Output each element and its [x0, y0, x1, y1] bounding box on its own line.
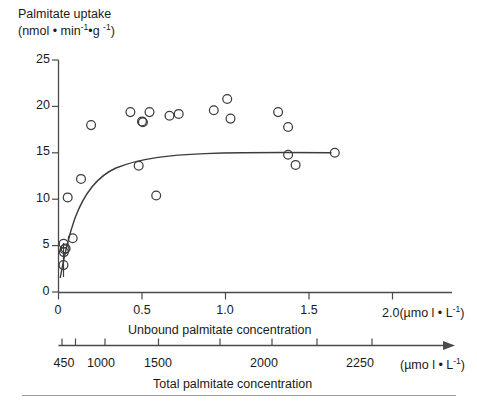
sup-minus-one-b: -1 [103, 22, 111, 32]
data-point [209, 106, 218, 115]
data-point [126, 108, 135, 117]
data-point [134, 161, 143, 170]
scatter-plot [0, 0, 477, 407]
x-tick-label: 1.5 [300, 303, 317, 317]
data-point [284, 150, 293, 159]
data-point [87, 121, 96, 130]
y-axis-ticks [52, 60, 59, 292]
data-point [223, 95, 232, 104]
x-tick-label: 0 [55, 303, 62, 317]
y-tick-label: 0 [43, 284, 50, 298]
data-point [68, 234, 77, 243]
data-points [59, 95, 339, 270]
x2-tick-label: 450 [54, 356, 75, 370]
data-point [145, 108, 154, 117]
x-axis-unit-secondary: (µmo l • L-1) [400, 358, 465, 372]
data-point [77, 175, 86, 184]
y-tick-label: 25 [36, 52, 50, 66]
axis-arrowhead [443, 341, 455, 350]
bottom-divider [22, 395, 456, 396]
y-tick-label: 15 [36, 144, 50, 158]
data-point [174, 110, 183, 119]
data-point [330, 148, 339, 157]
data-point [63, 193, 72, 202]
data-point [274, 108, 283, 117]
y-tick-label: 20 [36, 98, 50, 112]
figure-container: Palmitate uptake (nmol • min-1•g -1) [0, 0, 477, 407]
x-axis-unit-primary: 2.0(µmo l • L-1) [382, 306, 464, 320]
x-axis-ticks [59, 293, 393, 300]
x2-tick-label: 1500 [144, 356, 172, 370]
y-axis-label: Palmitate uptake (nmol • min-1•g -1) [18, 6, 115, 40]
data-point [226, 114, 235, 123]
y-axis-label-line1: Palmitate uptake [18, 6, 115, 23]
x-tick-label: 1.0 [216, 303, 233, 317]
x-axis-title-secondary: Total palmitate concentration [153, 377, 312, 391]
secondary-x-axis [59, 339, 456, 351]
x2-tick-label: 2250 [346, 356, 374, 370]
fit-curve [60, 153, 331, 278]
data-point [291, 161, 300, 170]
data-point [165, 111, 174, 120]
y-tick-label: 10 [36, 191, 50, 205]
x-tick-label: 0.5 [133, 303, 150, 317]
x2-tick-label: 1000 [87, 356, 115, 370]
x-axis-title-primary: Unbound palmitate concentration [128, 323, 311, 337]
data-point [284, 123, 293, 132]
y-tick-label: 5 [43, 237, 50, 251]
x2-tick-label: 2000 [250, 356, 278, 370]
data-point [152, 191, 161, 200]
y-axis-label-line2: (nmol • min-1•g -1) [18, 23, 115, 40]
